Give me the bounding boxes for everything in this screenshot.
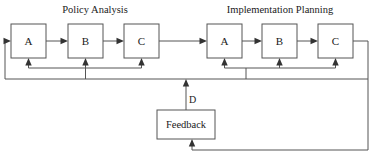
node-label-policy-analysis-a: A	[25, 35, 33, 47]
node-policy-analysis-c[interactable]: C	[124, 24, 159, 58]
edge-ip-b-to-ip-c	[297, 38, 318, 44]
feedback-distribution-bus	[4, 38, 369, 79]
edge-label-d: D	[189, 94, 196, 105]
node-policy-analysis-a[interactable]: A	[11, 24, 46, 58]
edge-pa-c-to-ip-a	[159, 38, 207, 44]
node-label-policy-analysis-c: C	[138, 35, 145, 47]
node-label-implementation-planning-a: A	[221, 35, 229, 47]
flow-diagram-svg: Policy Analysis Implementation Planning	[0, 0, 373, 164]
node-label-implementation-planning-c: C	[332, 35, 339, 47]
node-label-implementation-planning-b: B	[276, 35, 283, 47]
feedback-bus-policy-analysis	[25, 58, 144, 68]
node-implementation-planning-a[interactable]: A	[207, 24, 242, 58]
edge-pa-b-to-pa-c	[103, 38, 124, 44]
diagram-canvas: Policy Analysis Implementation Planning	[0, 0, 373, 164]
node-policy-analysis-b[interactable]: B	[68, 24, 103, 58]
node-label-feedback: Feedback	[166, 119, 207, 130]
group-title-policy-analysis: Policy Analysis	[62, 4, 128, 15]
feedback-bus-implementation-planning	[221, 58, 338, 68]
node-implementation-planning-c[interactable]: C	[318, 24, 353, 58]
node-implementation-planning-b[interactable]: B	[262, 24, 297, 58]
edge-ip-a-to-ip-b	[242, 38, 262, 44]
node-feedback[interactable]: Feedback	[157, 110, 215, 139]
node-label-policy-analysis-b: B	[82, 35, 89, 47]
group-title-implementation-planning: Implementation Planning	[227, 4, 334, 15]
edge-pa-a-to-pa-b	[46, 38, 68, 44]
